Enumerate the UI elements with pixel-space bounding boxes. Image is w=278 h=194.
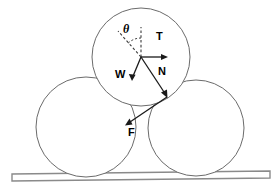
diagram-canvas	[0, 0, 278, 194]
weight-label: W	[115, 69, 125, 80]
ground-plank	[12, 171, 270, 181]
normal-force-label: N	[158, 66, 166, 77]
physics-diagram: θ T W N F	[0, 0, 278, 194]
friction-force-label: F	[128, 127, 135, 138]
theta-angle-label: θ	[123, 23, 129, 35]
tension-label: T	[156, 31, 163, 42]
